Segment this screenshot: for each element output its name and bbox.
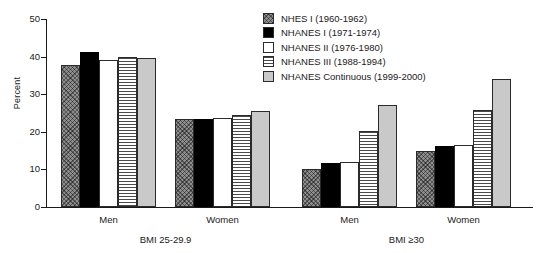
y-axis-tick-label: 30 bbox=[18, 88, 40, 99]
legend-item: NHANES III (1988-1994) bbox=[263, 55, 426, 70]
legend-swatch-icon bbox=[263, 27, 274, 38]
x-axis-group-label: Women bbox=[424, 214, 504, 225]
bar bbox=[118, 57, 137, 207]
bar-chart-figure: Percent 01020304050 MenWomenMenWomenBMI … bbox=[0, 0, 542, 253]
bar bbox=[99, 60, 118, 207]
bar bbox=[454, 145, 473, 207]
bar bbox=[378, 105, 397, 207]
legend-item: NHANES II (1976-1980) bbox=[263, 40, 426, 55]
legend-label: NHANES I (1971-1974) bbox=[281, 28, 380, 38]
bar bbox=[473, 110, 492, 207]
y-axis-tick-label: 10 bbox=[18, 163, 40, 174]
legend-item: NHANES Continuous (1999-2000) bbox=[263, 69, 426, 84]
y-axis-tick-label: 50 bbox=[18, 13, 40, 24]
y-axis-tick-label: 20 bbox=[18, 126, 40, 137]
legend-swatch-icon bbox=[263, 56, 274, 67]
x-axis-section-label: BMI ≥30 bbox=[347, 234, 467, 245]
bar-group bbox=[175, 19, 270, 207]
legend-label: NHANES Continuous (1999-2000) bbox=[281, 72, 426, 82]
bar bbox=[175, 119, 194, 207]
bar bbox=[302, 169, 321, 207]
bar bbox=[213, 118, 232, 207]
bar bbox=[61, 65, 80, 208]
bar bbox=[137, 58, 156, 207]
bar bbox=[80, 52, 99, 207]
bar bbox=[435, 146, 454, 207]
legend-label: NHANES II (1976-1980) bbox=[281, 43, 383, 53]
x-axis-line bbox=[46, 207, 533, 208]
y-axis-tick-label: 0 bbox=[18, 201, 40, 212]
legend-item: NHES I (1960-1962) bbox=[263, 11, 426, 26]
legend-label: NHANES III (1988-1994) bbox=[281, 57, 386, 67]
bar bbox=[340, 162, 359, 207]
x-axis-group-label: Men bbox=[310, 214, 390, 225]
legend-item: NHANES I (1971-1974) bbox=[263, 26, 426, 41]
bar-group bbox=[416, 19, 511, 207]
legend-swatch-icon bbox=[263, 42, 274, 53]
legend: NHES I (1960-1962)NHANES I (1971-1974)NH… bbox=[263, 11, 426, 84]
bar bbox=[194, 119, 213, 207]
x-axis-group-label: Men bbox=[69, 214, 149, 225]
legend-swatch-icon bbox=[263, 13, 274, 24]
bar bbox=[416, 151, 435, 207]
bar bbox=[492, 79, 511, 207]
bar bbox=[232, 115, 251, 207]
bar-group bbox=[61, 19, 156, 207]
x-axis-group-label: Women bbox=[183, 214, 263, 225]
x-axis-section-label: BMI 25-29.9 bbox=[106, 234, 226, 245]
legend-label: NHES I (1960-1962) bbox=[281, 14, 367, 24]
bar bbox=[251, 111, 270, 207]
bar bbox=[359, 131, 378, 207]
bar bbox=[321, 163, 340, 207]
y-axis-tick-label: 40 bbox=[18, 51, 40, 62]
legend-swatch-icon bbox=[263, 71, 274, 82]
